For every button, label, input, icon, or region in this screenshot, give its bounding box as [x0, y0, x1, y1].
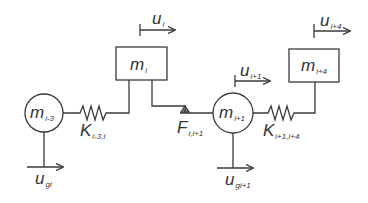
- mass-spring-diagram: mi ui mi-3 Ki-3,i ugi: [0, 0, 368, 203]
- friction-f-i-i-plus-1: Fi,i+1: [177, 106, 213, 138]
- friction-label-sub: i,i+1: [188, 129, 203, 138]
- spring-zigzag-icon: [63, 106, 108, 120]
- mass-label-sub: i+1: [234, 114, 245, 123]
- svg-text:mi: mi: [130, 55, 147, 75]
- mass-label-base: m: [219, 103, 233, 122]
- spring-k-i-minus-3-i: Ki-3,i: [63, 106, 108, 141]
- displacement-u-i-plus-1: ui+1: [235, 61, 270, 87]
- displacement-u-i-plus-4: ui+4: [314, 11, 350, 38]
- svg-text:Fi,i+1: Fi,i+1: [177, 118, 203, 138]
- disp-label-sub: gi+1: [235, 181, 250, 190]
- mass-label-sub: i: [145, 66, 147, 75]
- mass-label-sub: i-3: [45, 114, 54, 123]
- disp-label-sub: i: [162, 20, 164, 29]
- disp-label-sub: i+4: [330, 22, 341, 31]
- connector-left-leg: [108, 80, 129, 113]
- disp-label-base: u: [225, 170, 235, 189]
- disp-label-base: u: [320, 11, 330, 30]
- mass-m-i-plus-1: mi+1: [213, 93, 253, 133]
- spring-label-base: K: [263, 121, 275, 140]
- displacement-u-gi-plus-1: ugi+1: [217, 133, 253, 190]
- spring-zigzag-icon: [253, 82, 315, 120]
- mass-label-base: m: [301, 56, 315, 75]
- svg-text:Ki-3,i: Ki-3,i: [80, 121, 105, 141]
- svg-text:mi+1: mi+1: [219, 103, 245, 123]
- svg-text:ugi: ugi: [35, 169, 52, 189]
- mass-label-base: m: [130, 55, 144, 74]
- spring-k-i-plus-1-i-plus-4: Ki+1,i+4: [253, 82, 315, 141]
- displacement-u-gi: ugi: [27, 132, 63, 189]
- displacement-u-i: ui: [140, 9, 175, 36]
- svg-text:ugi+1: ugi+1: [225, 170, 251, 190]
- spring-label-sub: i+1,i+4: [275, 132, 300, 141]
- mass-label-base: m: [30, 103, 44, 122]
- disp-label-base: u: [152, 9, 162, 28]
- svg-text:ui: ui: [152, 9, 164, 29]
- spring-label-sub: i-3,i: [92, 132, 105, 141]
- friction-label-base: F: [177, 118, 189, 137]
- svg-text:Ki+1,i+4: Ki+1,i+4: [263, 121, 300, 141]
- disp-label-base: u: [240, 61, 250, 80]
- mass-m-i-minus-3: mi-3: [25, 94, 63, 132]
- svg-text:mi-3: mi-3: [30, 103, 55, 123]
- mass-m-i: mi: [116, 47, 167, 80]
- mass-m-i-plus-4: mi+4: [289, 49, 339, 82]
- disp-label-sub: gi: [45, 180, 51, 189]
- mass-label-sub: i+4: [316, 67, 327, 76]
- spring-label-base: K: [80, 121, 92, 140]
- svg-text:ui+1: ui+1: [240, 61, 261, 81]
- svg-text:ui+4: ui+4: [320, 11, 342, 31]
- disp-label-sub: i+1: [250, 72, 261, 81]
- connector-right-leg: [152, 80, 185, 113]
- svg-text:mi+4: mi+4: [301, 56, 328, 76]
- disp-label-base: u: [35, 169, 45, 188]
